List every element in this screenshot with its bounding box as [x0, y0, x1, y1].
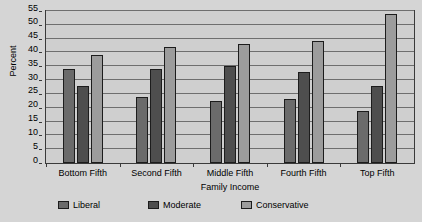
bars-layer [46, 11, 414, 163]
y-tick-label: 0 [33, 155, 38, 164]
bar-group [46, 11, 120, 163]
y-tick-mark [39, 135, 42, 136]
bar-group [120, 11, 194, 163]
x-tick-label: Top Fifth [360, 168, 395, 178]
legend-swatch-icon [241, 201, 252, 209]
y-tick-mark [39, 80, 42, 81]
x-tick-mark [46, 163, 47, 167]
bar-moderate [150, 69, 162, 163]
legend-swatch-icon [148, 201, 159, 209]
bar-conservative [164, 47, 176, 163]
bar-chart: Percent 0510152025303540455055 Bottom Fi… [0, 0, 422, 222]
y-tick-label: 50 [28, 17, 38, 26]
y-tick-mark [39, 39, 42, 40]
x-tick-label: Fourth Fifth [281, 168, 327, 178]
y-tick-mark [39, 108, 42, 109]
x-tick-mark [120, 163, 121, 167]
y-tick-label: 20 [28, 100, 38, 109]
bar-conservative [238, 44, 250, 163]
bar-liberal [284, 99, 296, 163]
bar-liberal [357, 111, 369, 164]
y-tick-mark [39, 25, 42, 26]
bar-moderate [298, 72, 310, 163]
legend-item-liberal[interactable]: Liberal [58, 200, 100, 210]
x-tick-label: Middle Fifth [207, 168, 254, 178]
y-tick-label: 45 [28, 31, 38, 40]
bar-group [340, 11, 414, 163]
legend-item-moderate[interactable]: Moderate [148, 200, 201, 210]
y-tick-mark [39, 94, 42, 95]
bar-conservative [312, 41, 324, 163]
y-tick-mark [39, 66, 42, 67]
legend-label: Liberal [73, 200, 100, 210]
bar-group [267, 11, 341, 163]
y-tick-label: 30 [28, 72, 38, 81]
bar-liberal [210, 101, 222, 163]
y-tick-label: 25 [28, 86, 38, 95]
y-tick-label: 5 [33, 141, 38, 150]
y-tick-label: 40 [28, 44, 38, 53]
chart-legend: LiberalModerateConservative [45, 200, 415, 214]
y-tick-mark [39, 149, 42, 150]
x-tick-label: Second Fifth [131, 168, 182, 178]
y-tick-label: 15 [28, 114, 38, 123]
x-axis-tick-labels: Bottom FifthSecond FifthMiddle FifthFour… [45, 168, 415, 180]
y-tick-mark [39, 52, 42, 53]
legend-label: Moderate [163, 200, 201, 210]
bar-conservative [91, 55, 103, 163]
y-tick-label: 55 [28, 3, 38, 12]
x-tick-label: Bottom Fifth [59, 168, 108, 178]
y-tick-mark [39, 11, 42, 12]
legend-label: Conservative [256, 200, 309, 210]
x-tick-mark [340, 163, 341, 167]
y-axis-ticks: 0510152025303540455055 [0, 10, 42, 164]
x-axis-title: Family Income [45, 182, 415, 192]
x-tick-mark [193, 163, 194, 167]
y-tick-label: 10 [28, 127, 38, 136]
legend-item-conservative[interactable]: Conservative [241, 200, 309, 210]
bar-moderate [77, 86, 89, 163]
bar-liberal [63, 69, 75, 163]
y-tick-mark [39, 122, 42, 123]
bar-group [193, 11, 267, 163]
bar-liberal [136, 97, 148, 163]
x-tick-mark [267, 163, 268, 167]
legend-swatch-icon [58, 201, 69, 209]
y-tick-label: 35 [28, 58, 38, 67]
bar-moderate [371, 86, 383, 163]
bar-moderate [224, 66, 236, 163]
bar-conservative [385, 14, 397, 163]
y-tick-mark [39, 163, 42, 164]
